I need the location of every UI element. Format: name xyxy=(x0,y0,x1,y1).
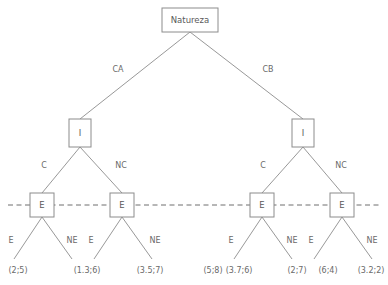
E4-to-payoff7 xyxy=(314,217,342,259)
terminal-edge-label-3: E xyxy=(88,236,93,245)
root-to-right-I xyxy=(190,32,303,119)
tree-labels: NaturezaIIEEEECACBCNCCNCENEENEENEENE(2;5… xyxy=(8,15,384,275)
payoff-label-4: (5;8) xyxy=(203,266,222,275)
left-I-to-E1 xyxy=(42,147,80,193)
payoff-label-3: (3.5;7) xyxy=(137,266,164,275)
game-tree-diagram: NaturezaIIEEEECACBCNCCNCENEENEENEENE(2;5… xyxy=(0,0,388,285)
E1-to-payoff1 xyxy=(14,217,42,259)
player-edge-label-4: NC xyxy=(335,161,347,170)
terminal-edge-label-5: E xyxy=(228,236,233,245)
tree-nodes xyxy=(30,8,354,217)
right-I-to-E4 xyxy=(303,147,342,193)
payoff-label-5: (3.7;6) xyxy=(226,266,253,275)
payoff-label-1: (2;5) xyxy=(8,266,27,275)
left-I-to-E2 xyxy=(80,147,122,193)
payoff-label-7: (6;4) xyxy=(318,266,337,275)
terminal-edge-label-8: NE xyxy=(366,236,377,245)
root-node-label: Natureza xyxy=(171,15,210,25)
player-edge-label-2: NC xyxy=(115,161,127,170)
right-I-to-E3 xyxy=(262,147,303,193)
E3-to-payoff5 xyxy=(234,217,262,259)
payoff-label-8: (3.2;2) xyxy=(358,266,385,275)
E2-to-payoff4 xyxy=(122,217,152,259)
decision-node-i-1-label: I xyxy=(79,128,82,138)
terminal-edge-label-2: NE xyxy=(66,236,77,245)
chance-edge-label-1: CA xyxy=(112,65,124,74)
terminal-edge-label-7: E xyxy=(308,236,313,245)
terminal-edge-label-1: E xyxy=(8,236,13,245)
payoff-label-2: (1.3;6) xyxy=(74,266,101,275)
chance-edge-label-2: CB xyxy=(262,65,273,74)
infoset-node-e-4-label: E xyxy=(339,200,344,210)
infoset-node-e-2-label: E xyxy=(119,200,124,210)
terminal-edge-label-4: NE xyxy=(149,236,160,245)
payoff-label-6: (2;7) xyxy=(287,266,306,275)
player-edge-label-1: C xyxy=(41,161,47,170)
decision-node-i-2-label: I xyxy=(302,128,305,138)
tree-edges xyxy=(14,32,372,259)
E2-to-payoff3 xyxy=(94,217,122,259)
infoset-node-e-1-label: E xyxy=(39,200,44,210)
player-edge-label-3: C xyxy=(260,161,266,170)
terminal-edge-label-6: NE xyxy=(286,236,297,245)
root-to-left-I xyxy=(80,32,190,119)
game-tree-canvas: NaturezaIIEEEECACBCNCCNCENEENEENEENE(2;5… xyxy=(0,0,388,285)
infoset-node-e-3-label: E xyxy=(259,200,264,210)
